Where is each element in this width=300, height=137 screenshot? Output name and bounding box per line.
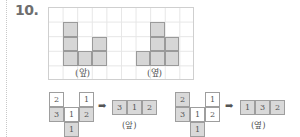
net-cell: 1 (205, 92, 220, 107)
net-cell: 1 (79, 92, 94, 107)
side-block (150, 22, 165, 37)
net-cell: 2 (79, 107, 94, 122)
side-block (165, 37, 180, 52)
net-cell: 2 (175, 92, 190, 107)
net-cell: 1 (190, 122, 205, 137)
net-cell: 1 (64, 107, 79, 122)
arrow-icon: ➡ (225, 100, 233, 111)
result-front-label: (앞) (122, 118, 137, 130)
side-label: (옆) (147, 66, 162, 79)
net-cell: 3 (49, 107, 64, 122)
front-block (63, 22, 78, 37)
net-cell: 2 (205, 107, 220, 122)
result-cell: 2 (270, 100, 285, 115)
net-cell: 1 (190, 107, 205, 122)
margin-dotted-line (6, 0, 7, 137)
side-block (136, 51, 151, 66)
net-cell: 3 (175, 107, 190, 122)
question-number: 10. (15, 2, 38, 18)
result-cell: 2 (142, 100, 157, 115)
front-block (92, 37, 107, 52)
arrow-icon: ➡ (98, 100, 106, 111)
result-cell: 3 (255, 100, 270, 115)
side-block (165, 51, 180, 66)
result-cell: 3 (112, 100, 127, 115)
side-block (150, 51, 165, 66)
front-block (63, 51, 78, 66)
result-cell: 1 (127, 100, 142, 115)
front-label: (앞) (75, 66, 90, 79)
front-block (78, 51, 93, 66)
result-side-label: (옆) (251, 118, 266, 130)
front-block (63, 37, 78, 52)
net-cell: 2 (49, 92, 64, 107)
side-block (150, 37, 165, 52)
result-cell: 1 (240, 100, 255, 115)
net-cell: 1 (64, 122, 79, 137)
front-block (92, 51, 107, 66)
